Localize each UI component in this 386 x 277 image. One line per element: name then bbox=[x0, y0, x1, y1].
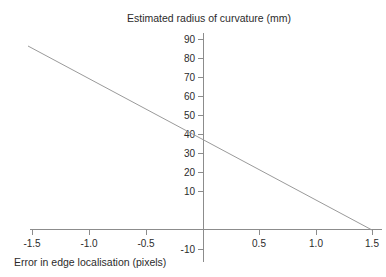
x-tick-label: -1.0 bbox=[80, 238, 98, 249]
y-tick-label: 20 bbox=[184, 167, 196, 178]
y-tick-label: 50 bbox=[184, 110, 196, 121]
y-tick-label: 70 bbox=[184, 72, 196, 83]
y-tick-label: 10 bbox=[184, 186, 196, 197]
x-tick-label: -1.5 bbox=[23, 238, 41, 249]
data-series-line bbox=[28, 46, 372, 230]
chart-title: Estimated radius of curvature (mm) bbox=[127, 12, 291, 24]
x-tick-label: 1.5 bbox=[365, 238, 379, 249]
y-tick-label: 30 bbox=[184, 148, 196, 159]
y-tick-label: -10 bbox=[181, 244, 196, 255]
x-axis-tick-labels: -1.5 -1.0 -0.5 0.5 1.0 1.5 bbox=[23, 238, 379, 249]
plot-area: Estimated radius of curvature (mm) 90 80… bbox=[0, 0, 386, 277]
y-tick-label: 80 bbox=[184, 53, 196, 64]
x-tick-label: -0.5 bbox=[137, 238, 155, 249]
y-axis-tick-labels: 90 80 70 60 50 40 30 20 10 -10 bbox=[181, 34, 196, 255]
y-tick-label: 90 bbox=[184, 34, 196, 45]
y-tick-label: 60 bbox=[184, 91, 196, 102]
x-axis-ticks bbox=[33, 230, 373, 235]
chart-figure: Estimated radius of curvature (mm) 90 80… bbox=[0, 0, 386, 277]
x-tick-label: 1.0 bbox=[309, 238, 323, 249]
x-tick-label: 0.5 bbox=[252, 238, 266, 249]
x-axis-caption: Error in edge localisation (pixels) bbox=[14, 256, 166, 268]
y-axis-ticks bbox=[198, 40, 203, 250]
